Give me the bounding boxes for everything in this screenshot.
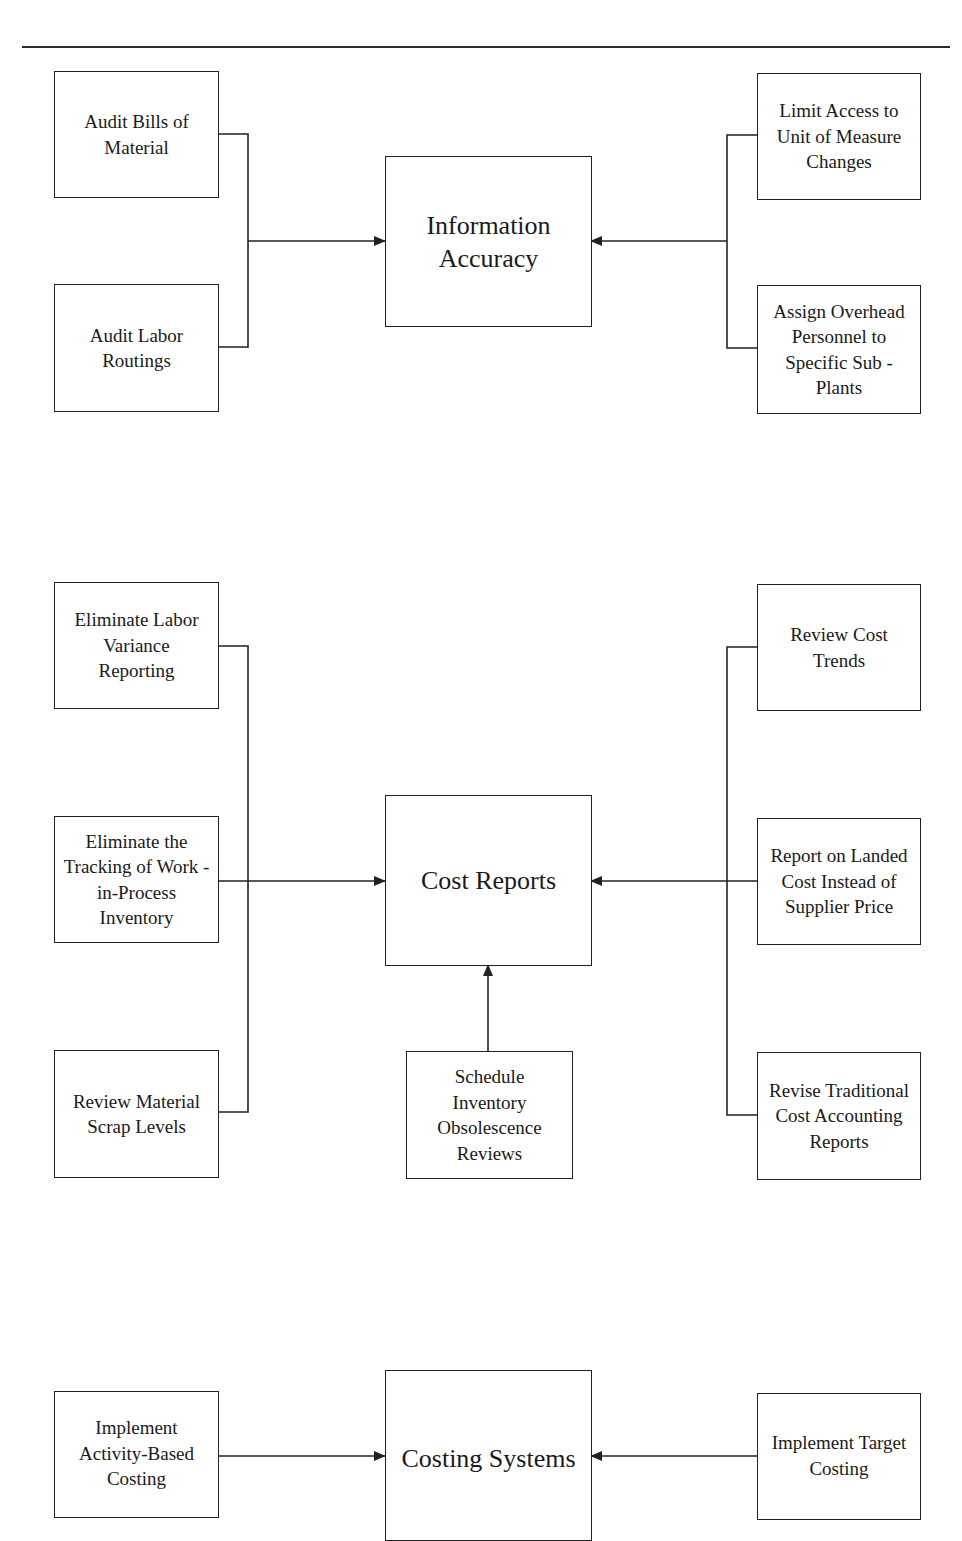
box-implement-target-costing: Implement Target Costing xyxy=(757,1393,921,1520)
box-label: Assign Overhead Personnel to Specific Su… xyxy=(773,299,904,401)
box-audit-labor-routings: Audit Labor Routings xyxy=(54,284,219,412)
box-label: Revise Traditional Cost Accounting Repor… xyxy=(769,1078,909,1155)
box-label: Review Material Scrap Levels xyxy=(73,1089,200,1140)
box-label: Audit Bills of Material xyxy=(84,109,189,160)
box-label: Limit Access to Unit of Measure Changes xyxy=(777,98,902,175)
box-implement-activity-based-costing: Implement Activity-Based Costing xyxy=(54,1391,219,1518)
box-eliminate-wip-tracking: Eliminate the Tracking of Work - in-Proc… xyxy=(54,816,219,943)
box-label: Audit Labor Routings xyxy=(90,323,183,374)
cost-reports-right-bracket xyxy=(591,647,757,1115)
information-accuracy-left-bracket xyxy=(219,134,385,347)
box-label: Schedule Inventory Obsolescence Reviews xyxy=(437,1064,541,1166)
box-limit-access-unit-of-measure: Limit Access to Unit of Measure Changes xyxy=(757,73,921,200)
center-label: Cost Reports xyxy=(421,864,556,897)
cost-reports-left-bracket xyxy=(219,646,385,1112)
box-label: Implement Activity-Based Costing xyxy=(79,1415,194,1492)
center-label: Information Accuracy xyxy=(426,209,550,275)
box-eliminate-labor-variance-reporting: Eliminate Labor Variance Reporting xyxy=(54,582,219,709)
box-schedule-inventory-obsolescence-reviews: Schedule Inventory Obsolescence Reviews xyxy=(406,1051,573,1179)
center-label: Costing Systems xyxy=(401,1442,575,1475)
header-rule xyxy=(22,46,950,48)
box-information-accuracy: Information Accuracy xyxy=(385,156,592,327)
box-costing-systems: Costing Systems xyxy=(385,1370,592,1541)
box-revise-traditional-cost-accounting-reports: Revise Traditional Cost Accounting Repor… xyxy=(757,1052,921,1180)
box-report-landed-cost: Report on Landed Cost Instead of Supplie… xyxy=(757,818,921,945)
box-assign-overhead-personnel: Assign Overhead Personnel to Specific Su… xyxy=(757,285,921,414)
box-label: Report on Landed Cost Instead of Supplie… xyxy=(770,843,907,920)
box-review-cost-trends: Review Cost Trends xyxy=(757,584,921,711)
box-cost-reports: Cost Reports xyxy=(385,795,592,966)
box-audit-bills-of-material: Audit Bills of Material xyxy=(54,71,219,198)
box-label: Review Cost Trends xyxy=(790,622,888,673)
box-label: Eliminate Labor Variance Reporting xyxy=(75,607,199,684)
page-header-fragment xyxy=(510,0,950,5)
box-label: Implement Target Costing xyxy=(772,1430,907,1481)
information-accuracy-right-bracket xyxy=(591,135,757,348)
box-label: Eliminate the Tracking of Work - in-Proc… xyxy=(64,829,210,931)
box-review-material-scrap-levels: Review Material Scrap Levels xyxy=(54,1050,219,1178)
